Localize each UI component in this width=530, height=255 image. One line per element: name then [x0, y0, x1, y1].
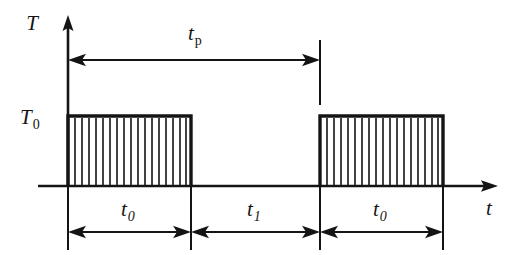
t0-second-label-sub: 0 — [380, 209, 387, 224]
t0-first-label: t0 — [121, 197, 135, 224]
pulse-1-hatching — [75, 118, 186, 185]
period-dimension-group — [68, 40, 320, 105]
t1-dimension-group — [191, 226, 320, 238]
timing-diagram-figure: T T0 t tp t0 t1 t0 — [0, 0, 530, 255]
temperature-axis-label: T — [26, 11, 39, 35]
t0-second-dimension-group — [320, 226, 443, 238]
t0-first-label-sub: 0 — [128, 209, 135, 224]
t1-label-sub: 1 — [254, 209, 261, 224]
axes-group — [38, 15, 498, 192]
level-T0-base: T — [20, 105, 33, 129]
pulse-1-group — [68, 116, 191, 186]
t1-label: t1 — [247, 197, 261, 224]
level-T0-sub: 0 — [33, 117, 40, 132]
period-label: tp — [188, 21, 202, 48]
level-T0-label: T0 — [20, 105, 40, 132]
pulse-2-group — [320, 116, 443, 186]
pulse-2-hatching — [327, 118, 438, 185]
t0-first-dimension-group — [68, 226, 191, 238]
period-label-sub: p — [195, 33, 202, 48]
t0-second-label: t0 — [373, 197, 387, 224]
time-axis-label: t — [486, 196, 493, 220]
diagram-canvas: T T0 t tp t0 t1 t0 — [0, 0, 530, 255]
